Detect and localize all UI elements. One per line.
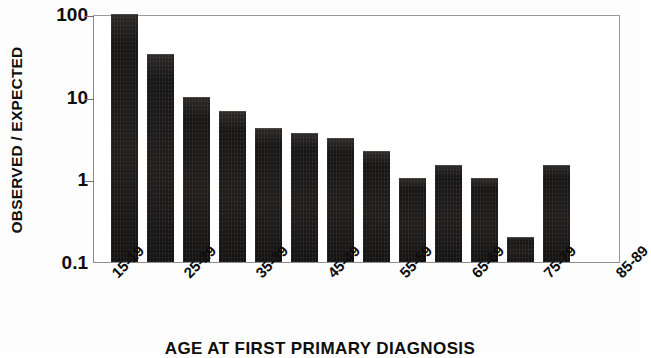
plot-area — [93, 15, 620, 263]
bar — [507, 237, 535, 262]
y-axis-tick-mark — [85, 99, 94, 100]
bar-series — [94, 16, 619, 262]
x-axis-tick-labels: 15-1925-2935-3945-4955-5965-6975-7985-89 — [93, 265, 620, 325]
x-axis-title: AGE AT FIRST PRIMARY DIAGNOSIS — [0, 339, 640, 358]
bar — [219, 111, 247, 262]
bar — [147, 54, 175, 262]
y-axis-tick-label: 10 — [34, 88, 88, 107]
y-axis-title: OBSERVED / EXPECTED — [8, 47, 26, 234]
y-axis-tick-label: 0.1 — [34, 253, 88, 272]
bar — [291, 133, 319, 262]
y-axis-tick-label: 100 — [34, 5, 88, 24]
y-axis-tick-mark — [85, 16, 94, 17]
y-axis-title-container: OBSERVED / EXPECTED — [0, 0, 34, 280]
y-axis-tick-mark — [85, 181, 94, 182]
y-axis-tick-labels: 1001010.1 — [32, 0, 88, 352]
bar — [183, 97, 211, 262]
y-axis-tick-label: 1 — [34, 170, 88, 189]
bar — [363, 151, 391, 262]
bar — [111, 14, 139, 262]
bar — [435, 165, 463, 262]
